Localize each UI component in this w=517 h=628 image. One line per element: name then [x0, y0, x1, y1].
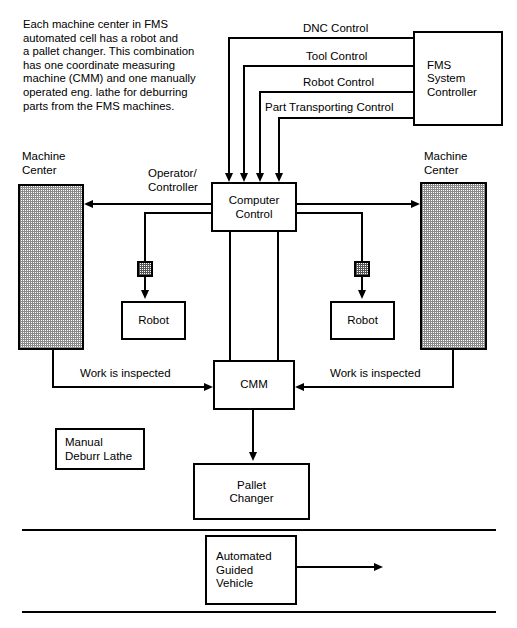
- robot-control-arrowhead: [256, 173, 264, 182]
- cmm-to-pallet-changer-line: [252, 410, 254, 454]
- manual-deburr-lathe-label: Manual Deburr Lathe: [65, 436, 143, 463]
- robot-control-line-v: [259, 91, 261, 177]
- robot-left-interface-marker: [137, 261, 153, 277]
- work-inspected-right-label: Work is inspected: [330, 367, 421, 381]
- machine-right-to-cmm-line-h: [304, 386, 454, 388]
- diagram-description: Each machine center in FMS automated cel…: [23, 18, 238, 113]
- robot-control-label: Robot Control: [303, 76, 374, 90]
- tool-control-line-v: [243, 65, 245, 177]
- machine-right-to-cmm-line-v: [452, 350, 454, 388]
- robot-left-box[interactable]: Robot: [121, 301, 186, 340]
- computer-control-box[interactable]: Computer Control: [211, 182, 297, 232]
- cc-to-robot-left-line-h: [144, 212, 211, 214]
- cc-to-machine-center-left-arrowhead: [84, 200, 93, 208]
- agv-direction-line: [297, 566, 374, 568]
- cc-to-cmm-line-right: [277, 232, 279, 360]
- machine-left-to-cmm-line-h: [52, 386, 204, 388]
- robot-right-label: Robot: [332, 314, 393, 328]
- cc-to-cmm-line-left: [229, 232, 231, 360]
- part-transporting-control-line-h: [278, 117, 414, 119]
- automated-guided-vehicle-label: Automated Guided Vehicle: [216, 550, 295, 591]
- fms-diagram-canvas: Each machine center in FMS automated cel…: [0, 0, 517, 628]
- machine-center-right-box[interactable]: [420, 182, 487, 350]
- machine-center-left-label: Machine Center: [22, 150, 65, 177]
- automated-guided-vehicle-box[interactable]: Automated Guided Vehicle: [205, 535, 297, 605]
- robot-left-label: Robot: [123, 314, 184, 328]
- fms-system-controller-label: FMS System Controller: [427, 58, 501, 99]
- cc-to-machine-center-right-line: [297, 203, 411, 205]
- cc-to-robot-right-arrowhead: [358, 290, 366, 299]
- cc-to-robot-left-line-v: [144, 212, 146, 292]
- tool-control-line-h: [243, 65, 414, 67]
- part-transporting-control-arrowhead: [275, 173, 283, 182]
- cc-to-machine-center-right-arrowhead: [411, 200, 420, 208]
- cmm-to-pallet-changer-arrowhead: [249, 452, 257, 461]
- agv-direction-arrowhead: [374, 563, 383, 571]
- operator-controller-label: Operator/ Controller: [148, 167, 198, 194]
- part-transporting-control-line-v: [278, 117, 280, 177]
- machine-left-to-cmm-arrowhead: [204, 383, 213, 391]
- cmm-label: CMM: [215, 378, 293, 392]
- machine-center-right-label: Machine Center: [424, 150, 467, 177]
- agv-rail-top: [22, 529, 496, 531]
- dnc-control-arrowhead: [225, 173, 233, 182]
- robot-control-line-h: [259, 91, 414, 93]
- machine-center-left-box[interactable]: [18, 184, 84, 350]
- robot-right-interface-marker: [354, 261, 370, 277]
- tool-control-label: Tool Control: [306, 50, 367, 64]
- dnc-control-line-h: [228, 37, 414, 39]
- agv-rail-bottom: [22, 611, 496, 613]
- cc-to-robot-left-arrowhead: [141, 290, 149, 299]
- manual-deburr-lathe-box[interactable]: Manual Deburr Lathe: [55, 428, 145, 470]
- dnc-control-label: DNC Control: [303, 22, 368, 36]
- cc-to-robot-right-line-v: [361, 212, 363, 292]
- tool-control-arrowhead: [240, 173, 248, 182]
- machine-right-to-cmm-arrowhead: [295, 383, 304, 391]
- pallet-changer-label: Pallet Changer: [195, 478, 308, 505]
- dnc-control-line-v: [228, 37, 230, 177]
- fms-system-controller-box[interactable]: FMS System Controller: [413, 31, 503, 126]
- work-inspected-left-label: Work is inspected: [80, 367, 171, 381]
- part-transporting-control-label: Part Transporting Control: [265, 101, 393, 115]
- cc-to-robot-right-line-h: [297, 212, 363, 214]
- cc-to-machine-center-left-line: [93, 203, 211, 205]
- computer-control-label: Computer Control: [213, 194, 295, 221]
- pallet-changer-box[interactable]: Pallet Changer: [193, 463, 310, 520]
- cmm-box[interactable]: CMM: [213, 360, 295, 410]
- robot-right-box[interactable]: Robot: [330, 301, 395, 340]
- machine-left-to-cmm-line-v: [52, 350, 54, 388]
